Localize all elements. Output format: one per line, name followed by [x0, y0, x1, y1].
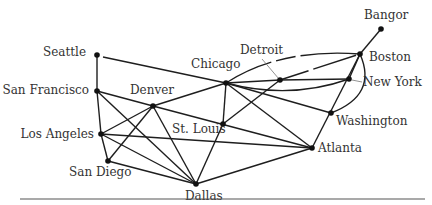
- node-dallas: [193, 181, 199, 187]
- label-dallas: Dallas: [185, 189, 223, 203]
- label-sandiego: San Diego: [69, 165, 131, 179]
- edge-stlouis-chicago: [223, 83, 226, 124]
- label-sanfrancisco: San Francisco: [2, 83, 89, 97]
- label-denver: Denver: [130, 83, 174, 97]
- edge-losangeles-atlanta: [101, 134, 312, 148]
- newyork-leader-line: [352, 80, 362, 82]
- edge-detroit-newyork: [280, 79, 349, 80]
- edge-dallas-atlanta: [196, 148, 312, 184]
- label-bangor: Bangor: [364, 8, 409, 22]
- node-denver: [150, 103, 156, 109]
- label-losangeles: Los Angeles: [21, 127, 94, 141]
- edge-losangeles-denver: [101, 106, 153, 134]
- label-stlouis: St. Louis: [172, 122, 226, 136]
- label-washington: Washington: [336, 114, 408, 128]
- node-newyork: [346, 76, 352, 82]
- label-detroit: Detroit: [240, 43, 283, 57]
- node-bangor: [378, 26, 384, 32]
- labels: Seattle San Francisco Los Angeles San Di…: [2, 8, 422, 203]
- edge-chicago-atlanta: [226, 83, 312, 148]
- node-detroit: [277, 77, 283, 83]
- node-boston: [357, 51, 363, 57]
- node-sanfrancisco: [94, 88, 100, 94]
- node-sandiego: [105, 158, 111, 164]
- label-chicago: Chicago: [191, 57, 241, 71]
- label-boston: Boston: [369, 50, 411, 64]
- label-seattle: Seattle: [43, 45, 86, 59]
- edge-losangeles-sandiego: [101, 134, 108, 161]
- label-atlanta: Atlanta: [317, 141, 362, 155]
- node-washington: [328, 110, 334, 116]
- city-network-diagram: Seattle San Francisco Los Angeles San Di…: [0, 0, 432, 205]
- node-chicago: [223, 80, 229, 86]
- label-newyork: New York: [363, 75, 423, 89]
- nodes: [94, 26, 384, 187]
- edge-sanfrancisco-losangeles: [97, 91, 101, 134]
- node-losangeles: [98, 131, 104, 137]
- edge-chicago-detroit: [226, 80, 280, 83]
- edge-sandiego-denver: [108, 106, 153, 161]
- node-atlanta: [309, 145, 315, 151]
- node-seattle: [94, 52, 100, 58]
- edges: [97, 29, 381, 184]
